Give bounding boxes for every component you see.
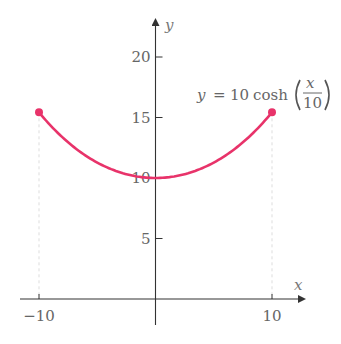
fraction-denominator: 10 — [303, 94, 322, 112]
x-axis-label: x — [294, 276, 303, 294]
formula-lhs: y — [196, 86, 206, 104]
formula-equals: = — [213, 86, 226, 104]
formula-function: cosh — [253, 86, 288, 104]
x-tick-label: 10 — [262, 307, 281, 325]
y-axis-label: y — [164, 16, 174, 34]
formula-coefficient: 10 — [230, 86, 249, 104]
x-tick-label: −10 — [23, 307, 55, 325]
axes — [20, 20, 304, 325]
fraction-numerator: x — [306, 74, 315, 92]
y-tick-label: 5 — [141, 230, 151, 248]
catenary-chart: −10105101520 y x y = 10 cosh x 10 — [0, 0, 341, 344]
right-paren — [325, 80, 329, 110]
left-paren — [296, 80, 300, 110]
y-tick-label: 20 — [131, 48, 150, 66]
endpoint-dot-1 — [268, 108, 276, 116]
function-annotation: y = 10 cosh x 10 — [196, 74, 329, 112]
endpoint-dot-0 — [35, 108, 43, 116]
y-tick-label: 15 — [131, 109, 150, 127]
